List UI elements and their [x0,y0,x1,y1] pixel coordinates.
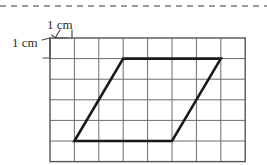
horizontal-dimension-label: 1 cm [47,18,73,31]
dimension-marks [42,30,72,58]
grid-lines [50,38,245,162]
geometry-figure [0,0,267,165]
vertical-dimension-label: 1 cm [12,36,38,49]
figure-canvas: 1 cm 1 cm [0,0,267,165]
vertical-leader-mark [42,38,50,58]
